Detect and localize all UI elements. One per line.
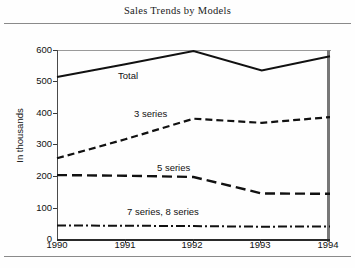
series-label-7-8-series: 7 series, 8 series (127, 206, 199, 217)
series-label-5-series: 5 series (157, 162, 190, 173)
x-tick-label: 1992 (172, 239, 212, 250)
divider-bottom (4, 256, 351, 257)
chart-page: Sales Trends by Models In thousands 600 … (0, 0, 355, 268)
x-axis-ticks: 1990 1991 1992 1993 1994 (0, 239, 355, 255)
x-tick-label: 1994 (308, 239, 348, 250)
x-tick-label: 1990 (37, 239, 77, 250)
page-title: Sales Trends by Models (0, 5, 355, 16)
x-tick-label: 1993 (240, 239, 280, 250)
chart-figure: In thousands 600 500 400 300 200 100 0 T… (0, 26, 355, 254)
series-line (57, 117, 330, 158)
series-line (57, 225, 330, 226)
series-label-3-series: 3 series (134, 108, 167, 119)
divider-top (4, 23, 351, 24)
series-line (57, 51, 330, 77)
chart-lines (0, 26, 355, 254)
x-tick-label: 1991 (105, 239, 145, 250)
series-label-total: Total (118, 70, 138, 81)
series-line (57, 175, 330, 194)
